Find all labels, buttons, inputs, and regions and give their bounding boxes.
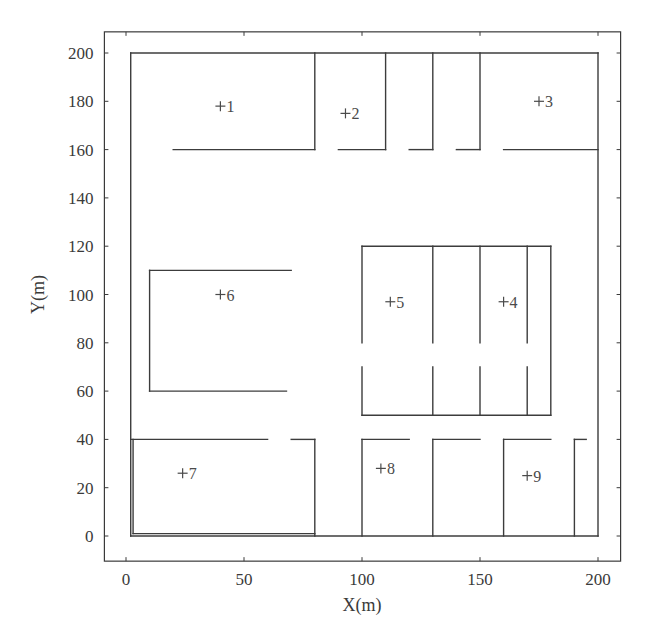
marker-label: 1 [226, 98, 234, 115]
y-tick-label: 40 [76, 430, 93, 449]
y-tick-label: 140 [68, 189, 94, 208]
marker-label: 7 [189, 465, 197, 482]
y-tick-label: 80 [76, 334, 93, 353]
x-tick-label: 150 [467, 570, 493, 589]
y-tick-label: 60 [76, 382, 93, 401]
marker-label: 3 [545, 93, 553, 110]
x-axis-label: X(m) [343, 595, 382, 616]
y-tick-label: 120 [68, 237, 94, 256]
marker-label: 5 [396, 294, 404, 311]
y-tick-label: 20 [76, 479, 93, 498]
marker-label: 8 [387, 460, 395, 477]
marker-label: 2 [351, 105, 359, 122]
x-tick-label: 200 [585, 570, 611, 589]
x-tick-label: 0 [122, 570, 131, 589]
y-axis-label: Y(m) [28, 275, 49, 314]
y-tick-label: 0 [85, 527, 94, 546]
x-tick-label: 100 [349, 570, 375, 589]
floor-plan-chart: 050100150200020406080100120140160180200 … [0, 0, 649, 644]
y-tick-label: 100 [68, 286, 94, 305]
marker-label: 4 [510, 294, 518, 311]
marker-label: 9 [533, 468, 541, 485]
marker-label: 6 [226, 287, 234, 304]
x-tick-label: 50 [236, 570, 253, 589]
y-tick-label: 180 [68, 92, 94, 111]
y-tick-label: 200 [68, 44, 94, 63]
y-tick-label: 160 [68, 141, 94, 160]
